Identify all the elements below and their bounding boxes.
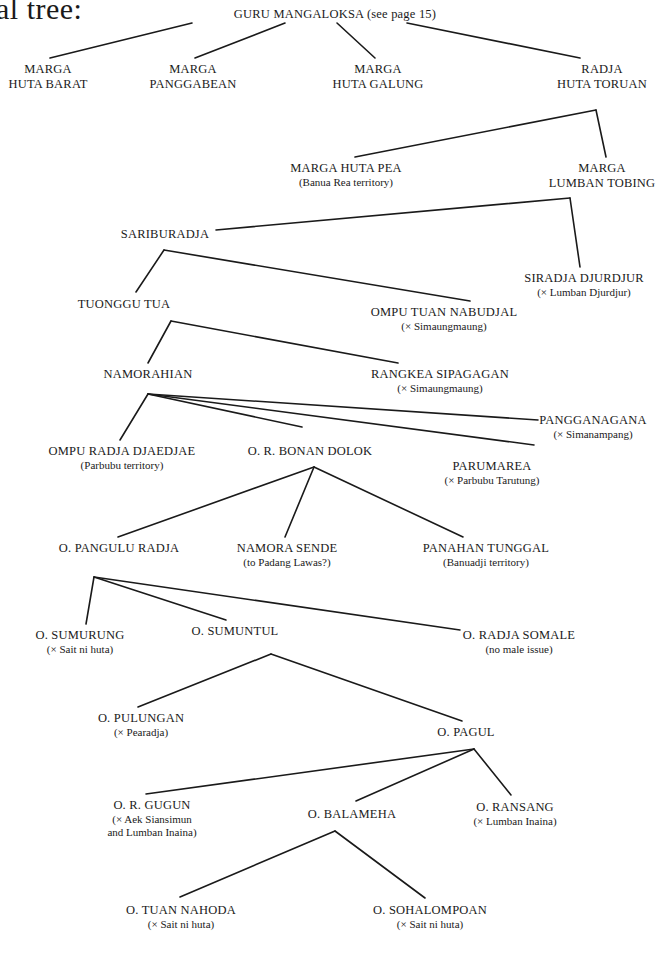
node-note: (× Simaungmaung) xyxy=(371,382,509,395)
node-o-sumuntul: O. SUMUNTUL xyxy=(192,624,279,639)
node-note: (× Parbubu Tarutung) xyxy=(444,474,539,487)
edge-o-pangulu-radja-to-o-sumurung xyxy=(86,577,94,624)
node-parumarea: PARUMAREA(× Parbubu Tarutung) xyxy=(444,459,539,487)
edge-guru-mangaloksa-to-marga-huta-galung xyxy=(337,23,375,58)
node-o-pagul: O. PAGUL xyxy=(437,725,494,740)
node-note: (× Simaungmaung) xyxy=(371,320,517,333)
node-note: (to Padang Lawas?) xyxy=(237,556,338,569)
node-name: PANAHAN TUNGGAL xyxy=(423,541,549,556)
node-name: O. SOHALOMPOAN xyxy=(373,903,487,918)
node-name: MARGA HUTA PEA xyxy=(290,161,402,176)
node-marga-huta-pea: MARGA HUTA PEA(Banua Rea territory) xyxy=(290,161,402,189)
edge-o-balameha-to-o-sohalompoan xyxy=(335,831,425,898)
node-name-line2: HUTA TORUAN xyxy=(557,77,647,92)
node-name-line2: HUTA BARAT xyxy=(8,77,87,92)
node-note: (× Sait ni huta) xyxy=(126,918,236,931)
node-marga-panggabean: MARGAPANGGABEAN xyxy=(150,62,237,92)
node-name: OMPU RADJA DJAEDJAE xyxy=(49,444,196,459)
node-name: O. PAGUL xyxy=(437,725,494,740)
node-rangkea-sipagagan: RANGKEA SIPAGAGAN(× Simaungmaung) xyxy=(371,367,509,395)
node-name: RANGKEA SIPAGAGAN xyxy=(371,367,509,382)
node-guru-mangaloksa: GURU MANGALOKSA (see page 15) xyxy=(234,7,436,22)
node-o-pulungan: O. PULUNGAN(× Pearadja) xyxy=(98,711,184,739)
node-name: MARGA xyxy=(549,161,656,176)
node-name: PARUMAREA xyxy=(444,459,539,474)
node-note: (× Sait ni huta) xyxy=(373,918,487,931)
node-tuonggu-tua: TUONGGU TUA xyxy=(78,297,171,312)
edge-o-balameha-to-o-tuan-nahoda xyxy=(180,831,335,897)
node-name-line2: PANGGABEAN xyxy=(150,77,237,92)
node-note: (× Aek Siansimun xyxy=(107,813,196,826)
node-namorahian: NAMORAHIAN xyxy=(104,367,193,382)
node-o-ransang: O. RANSANG(× Lumban Inaina) xyxy=(473,800,556,828)
node-marga-huta-barat: MARGAHUTA BARAT xyxy=(8,62,87,92)
edge-sariburadja-to-tuonggu-tua xyxy=(136,250,164,292)
node-name: O. PANGULU RADJA xyxy=(59,541,179,556)
edge-or-bonan-dolok-to-namora-sende xyxy=(285,467,314,537)
edge-sariburadja-to-ompu-tuan-nabudjal xyxy=(164,250,470,301)
node-name: MARGA xyxy=(150,62,237,77)
node-name: O. RADJA SOMALE xyxy=(463,628,575,643)
node-siradja-djurdjur: SIRADJA DJURDJUR(× Lumban Djurdjur) xyxy=(524,271,644,299)
node-o-balameha: O. BALAMEHA xyxy=(308,807,396,822)
node-radja-huta-toruan: RADJAHUTA TORUAN xyxy=(557,62,647,92)
edge-o-sumuntul-to-o-pulungan xyxy=(138,654,271,707)
edge-guru-mangaloksa-to-marga-huta-barat xyxy=(50,23,192,58)
edge-namorahian-to-ompu-radja-djaedjae xyxy=(120,394,148,440)
node-note: (Banuadji territory) xyxy=(423,556,549,569)
edge-marga-lumban-tobing-to-siradja-djurdjur xyxy=(570,198,580,267)
node-name: MARGA xyxy=(8,62,87,77)
node-note-line2: and Lumban Inaina) xyxy=(107,826,196,839)
node-name: O. TUAN NAHODA xyxy=(126,903,236,918)
edge-or-bonan-dolok-to-o-pangulu-radja xyxy=(118,467,314,537)
node-ompu-tuan-nabudjal: OMPU TUAN NABUDJAL(× Simaungmaung) xyxy=(371,305,517,333)
node-name: O. PULUNGAN xyxy=(98,711,184,726)
node-name-line2: HUTA GALUNG xyxy=(332,77,423,92)
edge-o-pagul-to-o-ransang xyxy=(474,749,511,795)
node-name: O. BALAMEHA xyxy=(308,807,396,822)
node-sariburadja: SARIBURADJA xyxy=(121,227,209,242)
edge-o-pangulu-radja-to-o-sumuntul xyxy=(94,577,226,620)
node-o-tuan-nahoda: O. TUAN NAHODA(× Sait ni huta) xyxy=(126,903,236,931)
node-o-sohalompoan: O. SOHALOMPOAN(× Sait ni huta) xyxy=(373,903,487,931)
node-note: (× Lumban Inaina) xyxy=(473,815,556,828)
node-o-radja-somale: O. RADJA SOMALE(no male issue) xyxy=(463,628,575,656)
node-note: (Banua Rea territory) xyxy=(290,176,402,189)
node-name: OMPU TUAN NABUDJAL xyxy=(371,305,517,320)
node-note: (Parbubu territory) xyxy=(49,459,196,472)
node-name: O. RANSANG xyxy=(473,800,556,815)
node-ompu-radja-djaedjae: OMPU RADJA DJAEDJAE(Parbubu territory) xyxy=(49,444,196,472)
edge-guru-mangaloksa-to-radja-huta-toruan xyxy=(407,23,580,58)
node-name: O. R. BONAN DOLOK xyxy=(248,444,373,459)
node-marga-huta-galung: MARGAHUTA GALUNG xyxy=(332,62,423,92)
node-or-gugun: O. R. GUGUN(× Aek Siansimunand Lumban In… xyxy=(107,798,196,839)
node-marga-lumban-tobing: MARGALUMBAN TOBING xyxy=(549,161,656,191)
edge-or-bonan-dolok-to-panahan-tunggal xyxy=(314,467,463,537)
edge-tuonggu-tua-to-rangkea-sipagagan xyxy=(171,321,398,363)
edge-o-pangulu-radja-to-o-radja-somale xyxy=(94,577,460,630)
node-note: (× Simanampang) xyxy=(539,428,647,441)
edge-radja-huta-toruan-to-marga-lumban-tobing xyxy=(596,110,606,157)
node-note: (no male issue) xyxy=(463,643,575,656)
node-note: (× Pearadja) xyxy=(98,726,184,739)
node-name: O. SUMUNTUL xyxy=(192,624,279,639)
node-namora-sende: NAMORA SENDE(to Padang Lawas?) xyxy=(237,541,338,569)
node-pangganagana: PANGGANAGANA(× Simanampang) xyxy=(539,413,647,441)
node-name: O. R. GUGUN xyxy=(107,798,196,813)
node-name: O. SUMURUNG xyxy=(35,628,124,643)
node-name: GURU MANGALOKSA (see page 15) xyxy=(234,7,436,22)
node-name-line2: LUMBAN TOBING xyxy=(549,176,656,191)
node-name: NAMORAHIAN xyxy=(104,367,193,382)
node-name: SARIBURADJA xyxy=(121,227,209,242)
node-o-pangulu-radja: O. PANGULU RADJA xyxy=(59,541,179,556)
edge-marga-lumban-tobing-to-sariburadja xyxy=(216,198,570,230)
node-name: TUONGGU TUA xyxy=(78,297,171,312)
edge-tuonggu-tua-to-namorahian xyxy=(148,321,171,363)
node-name: SIRADJA DJURDJUR xyxy=(524,271,644,286)
node-name: PANGGANAGANA xyxy=(539,413,647,428)
node-o-sumurung: O. SUMURUNG(× Sait ni huta) xyxy=(35,628,124,656)
node-panahan-tunggal: PANAHAN TUNGGAL(Banuadji territory) xyxy=(423,541,549,569)
node-name: MARGA xyxy=(332,62,423,77)
edge-radja-huta-toruan-to-marga-huta-pea xyxy=(355,110,596,157)
node-name: NAMORA SENDE xyxy=(237,541,338,556)
